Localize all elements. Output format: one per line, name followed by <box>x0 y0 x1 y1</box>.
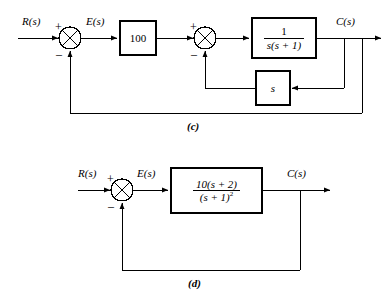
panel-d-input-label: R(s) <box>78 167 96 179</box>
panel-c-plant-denominator: s(s + 1) <box>264 38 304 51</box>
panel-d-summer-minus-sign: – <box>108 199 114 214</box>
panel-c-outer-summer-plus-sign: + <box>55 20 62 35</box>
panel-d-plant-numerator: 10(s + 2) <box>193 178 240 190</box>
panel-d-plant-denominator-exponent: 2 <box>230 190 234 198</box>
panel-c-outer-summer-minus-sign: – <box>56 47 62 62</box>
panel-d-summer-plus-sign: + <box>107 172 114 187</box>
figure-canvas: R(s) + – E(s) 100 + – 1 s(s + 1) s C(s) … <box>0 0 388 299</box>
panel-c-inner-summer-plus-sign: + <box>190 20 197 35</box>
panel-c-rate-feedback-block-label: s <box>256 71 290 105</box>
panel-c-input-label: R(s) <box>22 15 40 27</box>
panel-d-plant-denominator: (s + 1)2 <box>193 190 240 203</box>
panel-d-plant-denominator-base: (s + 1) <box>200 191 230 203</box>
panel-c-rate-feedback-value: s <box>271 82 275 94</box>
panel-d-caption: (d) <box>188 277 201 289</box>
panel-c-plant-numerator: 1 <box>264 25 304 37</box>
panel-d-plant-block-label: 10(s + 2) (s + 1)2 <box>171 168 262 213</box>
panel-d-error-label: E(s) <box>137 167 155 179</box>
block-diagram-vector-layer <box>0 0 388 299</box>
panel-c-error-label: E(s) <box>86 15 104 27</box>
panel-c-output-label: C(s) <box>336 15 355 27</box>
panel-c-gain-block-label: 100 <box>120 21 156 55</box>
panel-c-plant-block-label: 1 s(s + 1) <box>252 18 316 58</box>
panel-d-output-label: C(s) <box>287 167 306 179</box>
panel-c-inner-summer-minus-sign: – <box>191 47 197 62</box>
panel-c-caption: (c) <box>187 120 199 132</box>
panel-c-gain-block-value: 100 <box>130 32 147 44</box>
